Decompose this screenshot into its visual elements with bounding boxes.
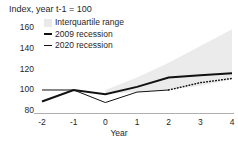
y-tick-label-160: 160	[0, 23, 34, 32]
x-tick-label-neg2: -2	[34, 118, 50, 127]
y-tick-label-100: 100	[0, 85, 34, 94]
iqr-band-group	[105, 29, 232, 94]
chart-container: Index, year t-1 = 100 Interquartile rang…	[0, 0, 238, 142]
x-tick-label-1: 1	[129, 118, 145, 127]
x-tick-label-0: 0	[97, 118, 113, 127]
legend-label-2009-recession: 2009 recession	[55, 29, 113, 41]
legend-label-interquartile-range: Interquartile range	[55, 17, 124, 29]
band-swatch-icon	[44, 19, 52, 27]
thin-line-swatch-icon	[44, 41, 53, 50]
legend-item-2020-recession: 2020 recession	[44, 40, 124, 52]
x-tick-label-2: 2	[161, 118, 177, 127]
y-tick-label-80: 80	[0, 106, 34, 115]
x-tick-label-4: 4	[224, 118, 238, 127]
thick-line-swatch-icon	[44, 30, 53, 39]
legend-label-2020-recession: 2020 recession	[55, 40, 113, 52]
y-tick-label-140: 140	[0, 44, 34, 53]
x-axis-title: Year	[0, 129, 238, 138]
interquartile-range-band	[105, 29, 232, 94]
x-tick-label-3: 3	[192, 118, 208, 127]
y-tick-label-120: 120	[0, 65, 34, 74]
x-tick-label-neg1: -1	[66, 118, 82, 127]
legend-item-interquartile-range: Interquartile range	[44, 17, 124, 29]
legend-item-2009-recession: 2009 recession	[44, 29, 124, 41]
chart-legend: Interquartile range 2009 recession 2020 …	[44, 17, 124, 52]
